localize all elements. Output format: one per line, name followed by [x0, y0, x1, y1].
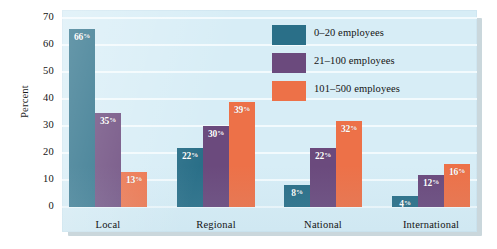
bar-local-series-3: 13% [121, 172, 147, 207]
gridline-40 [62, 98, 477, 100]
x-label-national: National [263, 219, 383, 230]
bar-national-series-3: 32% [336, 121, 362, 207]
bar-regional-series-1: 22% [177, 148, 203, 207]
bar-local-series-2: 35% [95, 113, 121, 208]
bar-value-label: 13% [121, 175, 147, 185]
bar-value-label: 12% [418, 178, 444, 188]
bar-value-label: 4% [392, 199, 418, 209]
bar-international-series-2: 12% [418, 175, 444, 207]
x-label-international: International [371, 219, 491, 230]
bar-national-series-1: 8% [284, 185, 310, 207]
legend-label-1: 0–20 employees [314, 27, 384, 38]
y-tick-label-40: 40 [28, 92, 54, 103]
bar-national-series-2: 22% [310, 148, 336, 207]
plot-area: 66%35%13%22%30%39%8%22%32%4%12%16% [62, 10, 477, 232]
legend-swatch-2 [272, 53, 306, 73]
bar-value-label: 32% [336, 124, 362, 134]
legend-swatch-3 [272, 81, 306, 101]
gridline-70 [62, 17, 477, 19]
bar-international-series-3: 16% [444, 164, 470, 207]
bar-chart: 66%35%13%22%30%39%8%22%32%4%12%16% Perce… [0, 0, 497, 249]
gridline-50 [62, 71, 477, 73]
x-label-regional: Regional [156, 219, 276, 230]
y-tick-label-0: 0 [28, 200, 54, 211]
bar-international-series-1: 4% [392, 196, 418, 207]
bar-regional-series-2: 30% [203, 126, 229, 207]
y-tick-label-50: 50 [28, 65, 54, 76]
bar-value-label: 22% [177, 151, 203, 161]
bar-value-label: 66% [69, 32, 95, 42]
legend-swatch-1 [272, 25, 306, 45]
bar-value-label: 35% [95, 116, 121, 126]
gridline-60 [62, 44, 477, 46]
y-tick-label-60: 60 [28, 38, 54, 49]
bar-local-series-1: 66% [69, 29, 95, 207]
bar-value-label: 39% [229, 105, 255, 115]
y-tick-label-20: 20 [28, 146, 54, 157]
y-tick-label-10: 10 [28, 173, 54, 184]
bar-value-label: 8% [284, 188, 310, 198]
bar-regional-series-3: 39% [229, 102, 255, 207]
bar-value-label: 30% [203, 129, 229, 139]
gridline-30 [62, 125, 477, 127]
bar-value-label: 22% [310, 151, 336, 161]
legend-label-2: 21–100 employees [314, 55, 395, 66]
y-tick-label-70: 70 [28, 11, 54, 22]
x-label-local: Local [48, 219, 168, 230]
legend-label-3: 101–500 employees [314, 83, 400, 94]
gridline-20 [62, 152, 477, 154]
bar-value-label: 16% [444, 167, 470, 177]
y-tick-label-30: 30 [28, 119, 54, 130]
